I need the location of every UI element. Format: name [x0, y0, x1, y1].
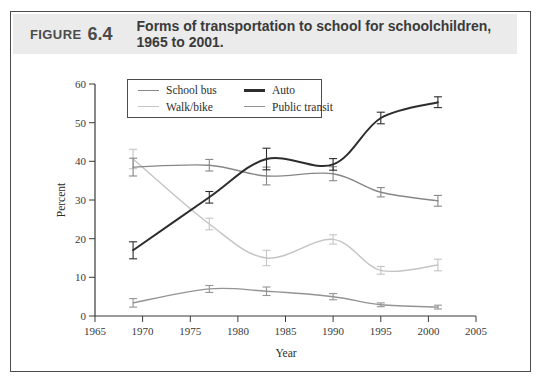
- y-tick-label: 20: [75, 233, 87, 245]
- x-tick-label: 1990: [322, 325, 345, 337]
- x-axis-label: Year: [275, 347, 296, 359]
- y-tick-label: 40: [75, 155, 87, 167]
- chart-legend: School bus Auto Walk/bike Public transit: [127, 79, 322, 118]
- school-bus-line: [133, 165, 438, 201]
- legend-label-school-bus: School bus: [166, 84, 217, 96]
- legend-item-auto: Auto: [244, 84, 333, 96]
- legend-item-public-transit: Public transit: [244, 101, 333, 113]
- axis-lines: [95, 84, 476, 316]
- y-tick-label: 60: [75, 78, 87, 90]
- y-tick-label: 0: [81, 310, 87, 322]
- x-tick-label: 1980: [227, 325, 250, 337]
- x-tick-label: 1965: [84, 325, 107, 337]
- x-tick-label: 1995: [370, 325, 393, 337]
- x-tick-label: 1985: [275, 325, 298, 337]
- legend-item-walk-bike: Walk/bike: [138, 101, 244, 113]
- y-tick-label: 10: [75, 271, 87, 283]
- legend-label-walk-bike: Walk/bike: [166, 101, 213, 113]
- legend-label-auto: Auto: [272, 84, 295, 96]
- y-axis-label: Percent: [55, 183, 67, 217]
- y-tick-label: 30: [75, 194, 87, 206]
- x-tick-label: 1975: [179, 325, 202, 337]
- school-bus-line-swatch: [138, 90, 159, 92]
- auto-line-swatch: [244, 89, 265, 92]
- transportation-line-chart: 0102030405060196519701975198019851990199…: [0, 0, 544, 385]
- x-tick-label: 2005: [465, 325, 488, 337]
- legend-label-public-transit: Public transit: [272, 101, 333, 113]
- legend-item-school-bus: School bus: [138, 84, 244, 96]
- public-transit-line-swatch: [244, 106, 265, 108]
- public-transit-line: [133, 288, 438, 307]
- x-tick-label: 2000: [417, 325, 440, 337]
- walk-bike-line-swatch: [138, 106, 159, 108]
- x-tick-label: 1970: [132, 325, 155, 337]
- y-tick-label: 50: [75, 117, 87, 129]
